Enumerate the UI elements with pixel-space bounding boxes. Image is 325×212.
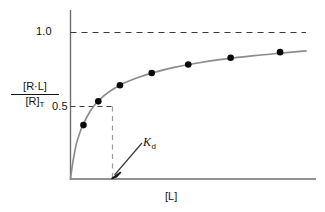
- data-point: [148, 70, 155, 77]
- binding-curve-figure: 1.0 0.5 [R·L] [R]T [L] Kd: [0, 0, 325, 212]
- y-axis-label-numerator: [R·L]: [11, 81, 59, 95]
- data-point: [95, 98, 102, 105]
- kd-annotation-label: Kd: [143, 135, 155, 150]
- x-axis-label: [L]: [165, 190, 177, 202]
- data-point: [227, 54, 234, 61]
- kd-annotation-subscript: d: [152, 142, 156, 151]
- kd-annotation-symbol: K: [143, 135, 151, 149]
- y-axis-label-denominator-subscript: T: [40, 100, 45, 109]
- data-point-group: [80, 49, 283, 129]
- kd-arrow: [112, 143, 142, 179]
- data-point: [117, 82, 124, 89]
- y-tick-label-1.0: 1.0: [36, 25, 52, 37]
- y-axis-label: [R·L] [R]T: [11, 81, 59, 107]
- data-point: [277, 49, 284, 56]
- binding-curve-line: [71, 51, 307, 179]
- y-axis-label-denominator: [R]T: [11, 95, 59, 108]
- data-point: [80, 122, 87, 129]
- y-axis-label-denominator-text: [R]: [26, 95, 40, 107]
- kd-arrow-shaft: [115, 143, 143, 175]
- data-point: [185, 61, 192, 68]
